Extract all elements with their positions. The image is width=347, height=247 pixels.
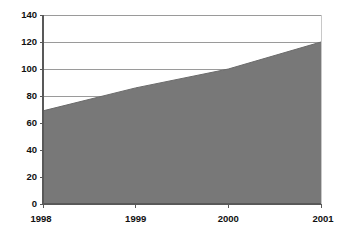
x-axis-tick-marks: [43, 204, 321, 208]
x-tick-label: 2001: [312, 213, 334, 224]
y-tick-label: 120: [21, 36, 37, 47]
y-tick-label: 100: [21, 63, 37, 74]
y-tick-label: 60: [26, 117, 37, 128]
y-tick-label: 140: [21, 9, 37, 20]
y-tick-label: 40: [26, 144, 37, 155]
x-axis-tick-labels: 1998199920002001: [30, 213, 334, 224]
x-tick-label: 2000: [218, 213, 239, 224]
x-tick-label: 1999: [125, 213, 146, 224]
y-axis-tick-labels: 020406080100120140: [21, 9, 37, 209]
y-tick-label: 0: [32, 198, 37, 209]
x-tick-label: 1998: [30, 213, 51, 224]
y-tick-label: 80: [26, 90, 37, 101]
area-chart-figure: 020406080100120140 1998199920002001: [0, 0, 347, 247]
chart-canvas: 020406080100120140 1998199920002001: [0, 0, 347, 247]
y-tick-label: 20: [26, 171, 37, 182]
